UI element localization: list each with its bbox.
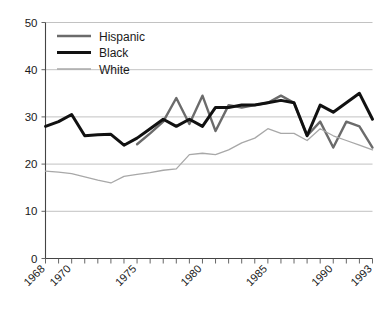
- chart-canvas: 010203040501968197019751980198519901993H…: [0, 0, 387, 313]
- y-tick-label-40: 40: [25, 64, 38, 76]
- x-tick-label-1970: 1970: [47, 262, 73, 288]
- x-tick-label-1985: 1985: [243, 262, 269, 288]
- legend-label-hispanic: Hispanic: [99, 30, 145, 44]
- x-tick-label-1975: 1975: [113, 262, 139, 288]
- x-tick-label-1993: 1993: [348, 262, 374, 288]
- x-tick-label-1990: 1990: [309, 262, 335, 288]
- x-tick-label-1980: 1980: [178, 262, 204, 288]
- line-chart: 010203040501968197019751980198519901993H…: [0, 0, 387, 313]
- series-line-white: [46, 129, 373, 183]
- y-tick-label-30: 30: [25, 111, 38, 123]
- legend-label-white: White: [99, 63, 130, 77]
- legend-label-black: Black: [99, 46, 129, 60]
- y-tick-label-10: 10: [25, 205, 38, 217]
- series-line-hispanic: [137, 96, 372, 148]
- y-tick-label-0: 0: [31, 253, 37, 265]
- y-tick-label-20: 20: [25, 158, 38, 170]
- series-line-black: [46, 93, 373, 145]
- y-tick-label-50: 50: [25, 17, 38, 29]
- x-tick-label-1968: 1968: [21, 262, 47, 288]
